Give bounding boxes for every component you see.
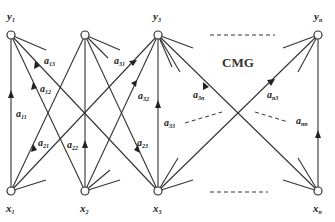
label-an3: an3 bbox=[267, 89, 278, 101]
label-a21: a21 bbox=[38, 137, 49, 149]
edges bbox=[11, 35, 318, 191]
cmg-graph-diagram: y1 y3 yn x1 x2 x3 xn a11 a12 a13 a21 a22… bbox=[0, 0, 335, 222]
nodes bbox=[7, 31, 322, 195]
node-y1 bbox=[7, 31, 15, 39]
arrow-an3-icon bbox=[267, 79, 275, 86]
arrow-a22-icon bbox=[82, 140, 88, 148]
arrow-a11-icon bbox=[8, 90, 14, 98]
arrow-a33-icon bbox=[155, 100, 161, 108]
label-y3: y3 bbox=[151, 10, 161, 23]
node-xn bbox=[314, 187, 322, 195]
edge-labels: a11 a12 a13 a21 a22 a23 a31 a32 a33 a3n … bbox=[16, 55, 308, 151]
label-a13: a13 bbox=[44, 55, 55, 67]
label-ann: ann bbox=[296, 115, 308, 127]
edge-stubs bbox=[11, 35, 318, 191]
mid-ellipsis-right bbox=[255, 112, 288, 122]
label-y1: y1 bbox=[5, 10, 15, 23]
label-x1: x1 bbox=[5, 202, 15, 215]
mid-ellipsis-left bbox=[185, 112, 222, 123]
label-a33: a33 bbox=[164, 117, 175, 129]
node-x2 bbox=[81, 187, 89, 195]
node-x3 bbox=[154, 187, 162, 195]
label-a31: a31 bbox=[114, 55, 125, 67]
label-a32: a32 bbox=[138, 90, 149, 102]
arrow-ann-icon bbox=[315, 130, 321, 138]
label-yn: yn bbox=[312, 10, 323, 23]
label-x2: x2 bbox=[79, 202, 89, 215]
label-a22: a22 bbox=[67, 139, 78, 151]
label-xn: xn bbox=[312, 202, 323, 215]
node-y3 bbox=[154, 31, 162, 39]
diagram-title-cmg: CMG bbox=[222, 55, 254, 70]
arrowheads bbox=[8, 60, 321, 153]
label-a3n: a3n bbox=[193, 89, 205, 101]
label-a11: a11 bbox=[16, 108, 27, 120]
label-a23: a23 bbox=[137, 137, 148, 149]
node-yn bbox=[314, 31, 322, 39]
label-x3: x3 bbox=[152, 202, 162, 215]
label-a12: a12 bbox=[40, 83, 51, 95]
node-x1 bbox=[7, 187, 15, 195]
node-y2 bbox=[81, 31, 89, 39]
